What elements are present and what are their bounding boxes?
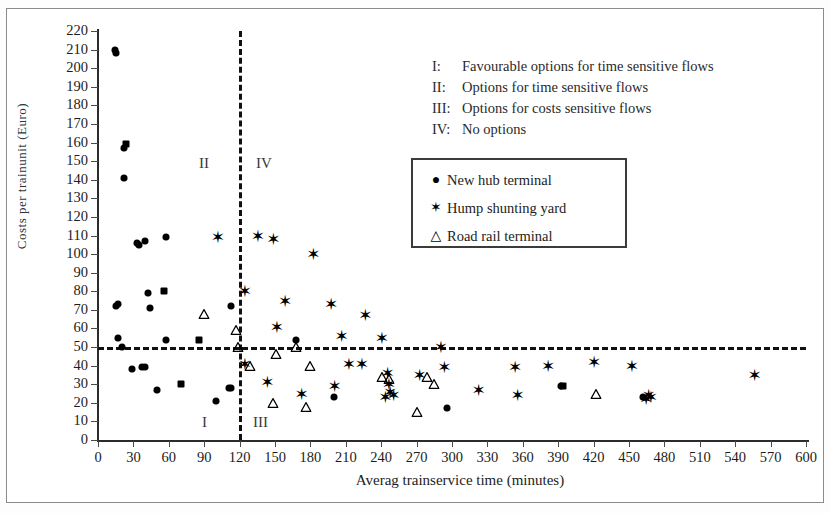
y-tick-label: 120 [48, 209, 88, 223]
y-tick-value: 150 [52, 153, 88, 167]
y-tick-label: 50 [48, 339, 88, 353]
y-tick-value: 210 [52, 42, 88, 56]
x-tick-label: 330 [467, 450, 507, 465]
y-tick-label: 160 [48, 135, 88, 149]
x-tick-label: 180 [290, 450, 330, 465]
data-point-new-hub-terminal [177, 381, 184, 388]
x-tick-mark [417, 441, 418, 447]
x-tick-label: 570 [751, 450, 791, 465]
y-tick-value: 140 [52, 172, 88, 186]
data-point-road-rail-terminal [305, 361, 316, 371]
y-tick-value: 110 [52, 228, 88, 242]
data-point-hump-shunting-yard: ✶ [375, 331, 388, 344]
x-tick-label: 390 [538, 450, 578, 465]
y-tick-label: 30 [48, 376, 88, 390]
x-tick-mark [523, 441, 524, 447]
data-point-road-rail-terminal [271, 349, 282, 359]
data-point-road-rail-terminal [429, 379, 440, 389]
data-point-hump-shunting-yard: ✶ [748, 368, 761, 381]
x-tick-mark [98, 441, 99, 447]
x-tick-label: 510 [680, 450, 720, 465]
y-tick-value: 130 [52, 190, 88, 204]
x-tick-mark [204, 441, 205, 447]
data-point-hump-shunting-yard: ✶ [510, 389, 523, 402]
y-tick-value: 50 [52, 339, 88, 353]
y-tick-label: 220 [48, 23, 88, 37]
y-tick-value: 10 [52, 413, 88, 427]
figure-container: 0102030405060708090100110120130140150160… [0, 0, 831, 513]
data-point-hump-shunting-yard: ✶ [211, 231, 224, 244]
y-tick-value: 20 [52, 395, 88, 409]
data-point-hump-shunting-yard: ✶ [251, 229, 264, 242]
data-point-hump-shunting-yard: ✶ [324, 298, 337, 311]
y-tick-mark [91, 347, 98, 348]
y-tick-label: 70 [48, 302, 88, 316]
data-point-hump-shunting-yard: ✶ [238, 285, 251, 298]
x-tick-label: 120 [220, 450, 260, 465]
x-tick-label: 270 [397, 450, 437, 465]
y-tick-value: 70 [52, 302, 88, 316]
x-tick-mark [133, 441, 134, 447]
y-tick-label: 40 [48, 358, 88, 372]
x-tick-mark [806, 441, 807, 447]
x-tick-label: 240 [361, 450, 401, 465]
y-tick-value: 200 [52, 60, 88, 74]
x-tick-label: 420 [574, 450, 614, 465]
y-tick-label: 60 [48, 320, 88, 334]
x-tick-label: 600 [786, 450, 826, 465]
y-tick-value: 0 [52, 432, 88, 446]
data-point-hump-shunting-yard: ✶ [471, 383, 484, 396]
data-point-new-hub-terminal [115, 334, 122, 341]
data-point-new-hub-terminal [112, 50, 119, 57]
data-point-hump-shunting-yard: ✶ [587, 355, 600, 368]
y-tick-label: 100 [48, 246, 88, 260]
data-point-hump-shunting-yard: ✶ [342, 357, 355, 370]
x-tick-label: 0 [78, 450, 118, 465]
data-point-new-hub-terminal [142, 364, 149, 371]
x-tick-label: 90 [184, 450, 224, 465]
x-tick-mark [558, 441, 559, 447]
y-tick-value: 190 [52, 79, 88, 93]
y-tick-value: 160 [52, 135, 88, 149]
data-point-new-hub-terminal [559, 383, 566, 390]
x-tick-mark [594, 441, 595, 447]
y-tick-mark [91, 440, 98, 441]
data-point-hump-shunting-yard: ✶ [383, 385, 396, 398]
y-tick-mark [91, 87, 98, 88]
data-point-road-rail-terminal [199, 309, 210, 319]
y-tick-mark [91, 68, 98, 69]
y-tick-value: 40 [52, 358, 88, 372]
data-point-new-hub-terminal [163, 336, 170, 343]
data-point-new-hub-terminal [444, 405, 451, 412]
y-tick-mark [91, 217, 98, 218]
x-tick-mark [275, 441, 276, 447]
y-tick-label: 150 [48, 153, 88, 167]
data-point-hump-shunting-yard: ✶ [437, 361, 450, 374]
x-tick-mark [452, 441, 453, 447]
y-tick-value: 90 [52, 265, 88, 279]
data-point-road-rail-terminal [231, 325, 242, 335]
data-point-new-hub-terminal [196, 336, 203, 343]
data-point-hump-shunting-yard: ✶ [278, 294, 291, 307]
data-point-new-hub-terminal [228, 303, 235, 310]
y-tick-value: 80 [52, 283, 88, 297]
y-tick-mark [91, 403, 98, 404]
y-tick-mark [91, 124, 98, 125]
plot-area: ✶✶✶✶✶✶✶✶✶✶✶✶✶✶✶✶✶✶✶✶✶✶✶✶✶✶✶✶✶✶✶✶✶✶✶ [98, 31, 806, 440]
y-tick-mark [91, 198, 98, 199]
y-tick-mark [91, 143, 98, 144]
data-point-hump-shunting-yard: ✶ [266, 233, 279, 246]
y-tick-label: 80 [48, 283, 88, 297]
y-tick-mark [91, 366, 98, 367]
y-axis-title: Costs per trainunit (Euro) [14, 76, 30, 276]
data-point-hump-shunting-yard: ✶ [639, 393, 652, 406]
y-tick-mark [91, 254, 98, 255]
data-point-hump-shunting-yard: ✶ [335, 329, 348, 342]
data-point-road-rail-terminal [300, 402, 311, 412]
data-point-hump-shunting-yard: ✶ [358, 309, 371, 322]
x-tick-label: 450 [609, 450, 649, 465]
y-tick-mark [91, 105, 98, 106]
data-point-new-hub-terminal [118, 344, 125, 351]
data-point-road-rail-terminal [267, 398, 278, 408]
y-tick-mark [91, 421, 98, 422]
